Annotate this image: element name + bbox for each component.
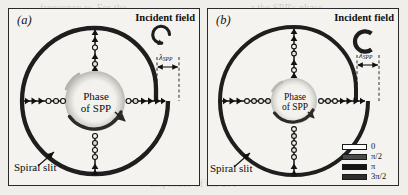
legend-item: π/2 [342, 152, 394, 161]
panel-a-arrow-chain-right [126, 98, 166, 105]
panel-a-spiral-slit-label: Spiral slit [14, 161, 56, 173]
legend-item: π [342, 162, 394, 171]
panel-a-arrow-chain-top [92, 30, 99, 72]
legend-swatch-2 [342, 164, 367, 170]
legend-swatch-0 [342, 144, 367, 150]
legend-label-2: π [371, 162, 375, 171]
panel-b: (b) Incident field [207, 8, 399, 186]
panel-a-arrow-chain-bottom [92, 133, 99, 175]
legend-label-1: π/2 [371, 152, 382, 161]
figure-container: frequency w. For the of the incident fie… [0, 0, 408, 195]
panel-b-spiral-slit-label: Spiral slit [210, 162, 252, 174]
panel-b-incident-field-icon [355, 31, 372, 51]
panel-b-arrow-chain-right [319, 98, 365, 105]
panel-a: (a) Incident field [8, 8, 200, 186]
panel-a-incident-field-icon [153, 26, 170, 45]
legend-swatch-3 [342, 174, 367, 180]
panel-b-center-title: Phase of SPP [266, 92, 324, 112]
panel-b-lambda-label: λSPP [359, 50, 372, 60]
phase-legend: 0 π/2 π 3π/2 [342, 142, 394, 182]
legend-item: 0 [342, 142, 394, 151]
panel-b-arrow-chain-top [291, 29, 298, 79]
panel-a-center-title: Phase of SPP [65, 91, 127, 114]
legend-label-3: 3π/2 [371, 172, 386, 181]
panel-a-arrow-chain-left [24, 98, 66, 105]
legend-item: 3π/2 [342, 172, 394, 181]
panel-a-lambda-label: λSPP [159, 52, 172, 62]
panel-b-arrow-chain-left [222, 98, 270, 105]
legend-label-0: 0 [371, 142, 375, 151]
panel-b-arrow-chain-bottom [291, 126, 298, 176]
legend-swatch-1 [342, 154, 367, 160]
